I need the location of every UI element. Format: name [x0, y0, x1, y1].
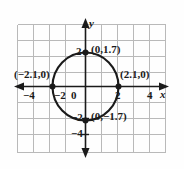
x-axis-label: x [160, 89, 166, 100]
point-label-right: (2.1,0) [120, 69, 149, 80]
x-axis [14, 83, 169, 91]
point-label-bottom: (0,−1.7) [91, 111, 127, 122]
y-tick-label-neg2: −2 [71, 112, 83, 123]
x-tick-label-neg2: −2 [54, 90, 66, 101]
graph-figure: −4 −2 2 4 0 2 −2 −4 y x (0,1.7) (2.1,0) … [0, 0, 184, 169]
point-label-left: (−2.1,0) [14, 69, 50, 80]
point-label-top: (0,1.7) [91, 44, 120, 55]
origin-label: 0 [71, 90, 77, 101]
x-tick-label-2: 2 [115, 90, 121, 101]
y-axis-label: y [89, 18, 94, 29]
y-tick-label-2: 2 [76, 46, 82, 57]
x-tick-label-neg4: −4 [23, 90, 35, 101]
y-tick-label-neg4: −4 [71, 128, 83, 139]
x-tick-label-4: 4 [147, 90, 153, 101]
point-bottom [83, 118, 89, 124]
point-top [83, 50, 89, 56]
